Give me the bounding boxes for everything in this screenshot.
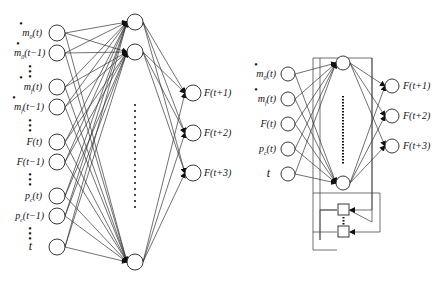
left-input-node-3: [49, 99, 65, 115]
left-input-node-1: [49, 45, 65, 61]
left-hidden-node-0: [127, 14, 143, 30]
right-input-label-mf-t: mf(t): [250, 94, 276, 108]
overdot: •: [16, 21, 26, 26]
overdot: •: [251, 87, 261, 92]
left-output-node-0: [185, 85, 201, 101]
delay-box-1: [338, 204, 349, 215]
left-output-node-2: [185, 165, 201, 181]
left-input-node-4: [49, 134, 65, 150]
overdot: •: [251, 62, 261, 67]
left-input-node-0: [49, 25, 65, 41]
right-connections: [295, 63, 385, 183]
right-output-node-1: [385, 109, 399, 123]
right-hidden-node-0: [336, 56, 350, 70]
left-input-label-F-t: F(t): [14, 137, 42, 147]
right-hidden-node-1: [336, 176, 350, 190]
left-output-label-F-t+3: F(t+3): [204, 168, 231, 178]
left-connections: [65, 22, 185, 262]
left-input-label-F-t-1: F(t−1): [10, 157, 44, 167]
right-input-node-2: [281, 117, 295, 131]
left-input-node-7: [49, 208, 65, 224]
ellipsis-vertical: •••: [25, 172, 35, 187]
left-hidden-node-2: [127, 254, 143, 270]
left-hidden-node-1: [127, 44, 143, 60]
right-input-node-0: [281, 67, 295, 81]
left-input-label-pc-t-1: pc(t−1): [10, 211, 44, 225]
left-output-node-1: [185, 125, 201, 141]
left-input-label-mf-t-1: mf(t−1): [10, 102, 44, 116]
overdot: •: [13, 41, 23, 46]
left-input-label-m0-t-1: m0(t−1): [14, 48, 44, 62]
right-output-node-2: [385, 139, 399, 153]
right-input-label-F-t: F(t): [250, 119, 276, 129]
left-input-node-6: [49, 188, 65, 204]
left-input-node-8: [49, 239, 65, 255]
overdot: •: [9, 95, 19, 100]
right-input-node-3: [281, 142, 295, 156]
right-output-node-0: [385, 79, 399, 93]
right-output-label-F-t+1: F(t+1): [403, 81, 430, 91]
delay-box-2: [338, 226, 349, 237]
left-output-label-F-t+2: F(t+2): [204, 128, 231, 138]
right-output-label-F-t+2: F(t+2): [403, 111, 430, 121]
right-input-node-4: [281, 167, 295, 181]
ellipsis-vertical: •••: [25, 64, 35, 79]
ellipsis-vertical: •••: [25, 118, 35, 133]
right-input-label-t: t: [258, 168, 270, 178]
left-input-label-m0-t: m0(t): [18, 28, 42, 42]
right-input-label-m0-t: m0(t): [250, 69, 276, 83]
left-input-label-pc-t: pc(t): [14, 191, 42, 205]
feedback-loops: [313, 58, 380, 250]
left-output-label-F-t+1: F(t+1): [204, 88, 231, 98]
right-input-node-1: [281, 92, 295, 106]
left-input-node-5: [49, 154, 65, 170]
left-input-label-mf-t: mf(t): [18, 82, 42, 96]
right-input-label-pc-t: pc(t): [250, 144, 276, 158]
neural-network-diagram: [0, 0, 447, 284]
left-input-node-2: [49, 79, 65, 95]
ellipsis-vertical: •••: [25, 226, 35, 241]
right-output-label-F-t+3: F(t+3): [403, 141, 430, 151]
